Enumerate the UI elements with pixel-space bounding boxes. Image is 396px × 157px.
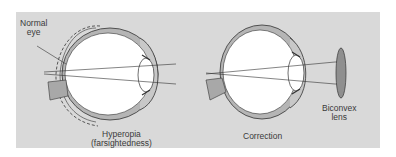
correction-caption: Correction [243,132,282,141]
biconvex-lens-label: Biconvex lens [322,104,357,122]
vitreous [223,30,297,114]
normal-eye-pointer [37,46,66,64]
biconvex-lens [336,48,346,98]
optic-nerve [48,80,68,100]
hyperopic-eye [37,26,176,126]
normal-eye-label: Normal eye [20,19,47,37]
crystalline-lens [138,58,154,92]
hyperopia-caption: Hyperopia (farsightedness) [91,130,152,148]
eye-diagram [0,0,396,157]
optic-nerve [206,78,226,100]
crystalline-lens [288,55,304,91]
